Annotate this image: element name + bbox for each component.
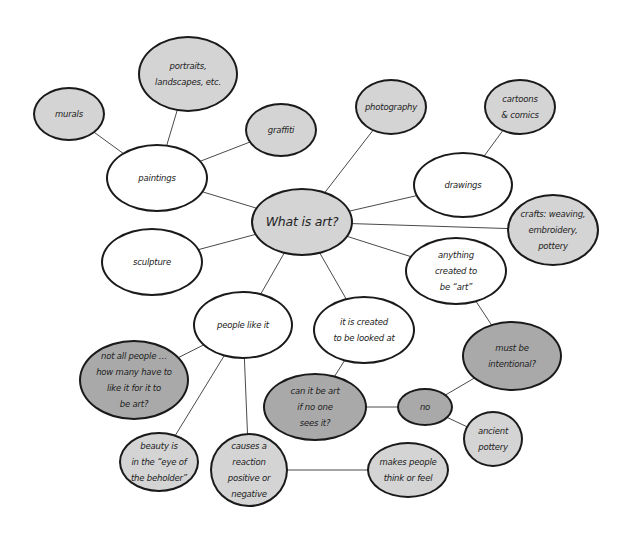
- node-anything: anything created to be “art”: [405, 237, 507, 305]
- node-label: What is art?: [266, 214, 339, 230]
- node-beauty: beauty is in the “eye of the beholder”: [119, 432, 199, 492]
- node-label: drawings: [444, 177, 481, 193]
- node-label: not all people … how many have to like i…: [96, 348, 172, 412]
- node-label: graffiti: [268, 122, 295, 138]
- node-label: causes a reaction positive or negative: [228, 438, 271, 502]
- node-label: photography: [365, 99, 417, 115]
- node-not-all: not all people … how many have to like i…: [79, 340, 189, 420]
- node-no: no: [397, 388, 453, 426]
- node-paintings: paintings: [106, 144, 208, 212]
- node-label: anything created to be “art”: [435, 247, 477, 295]
- node-intentional: must be intentional?: [462, 321, 562, 391]
- node-crafts: crafts: weaving, embroidery, pottery: [507, 194, 599, 266]
- node-photography: photography: [355, 79, 427, 135]
- node-cartoons: cartoons & comics: [484, 79, 556, 135]
- node-sculpture: sculpture: [101, 228, 203, 296]
- node-people-like: people like it: [193, 291, 293, 359]
- node-label: portraits, landscapes, etc.: [155, 58, 221, 90]
- node-label: no: [420, 399, 430, 415]
- node-graffiti: graffiti: [245, 103, 317, 157]
- node-label: people like it: [217, 317, 269, 333]
- node-looked-at: it is created to be looked at: [313, 296, 415, 364]
- node-label: sculpture: [133, 254, 171, 270]
- node-ancient: ancient pottery: [463, 411, 523, 467]
- node-label: it is created to be looked at: [333, 314, 394, 346]
- concept-map: What is art?muralsportraits, landscapes,…: [0, 0, 633, 533]
- node-no-one-sees: can it be art if no one sees it?: [263, 373, 367, 441]
- node-label: must be intentional?: [488, 340, 536, 372]
- node-think-feel: makes people think or feel: [367, 442, 449, 498]
- node-label: can it be art if no one sees it?: [290, 383, 339, 431]
- node-center: What is art?: [251, 188, 353, 256]
- node-portraits: portraits, landscapes, etc.: [138, 36, 238, 112]
- node-label: ancient pottery: [478, 423, 508, 455]
- edges-layer: [0, 0, 633, 533]
- node-murals: murals: [33, 87, 105, 141]
- node-label: murals: [55, 106, 83, 122]
- node-label: crafts: weaving, embroidery, pottery: [521, 206, 586, 254]
- node-label: makes people think or feel: [379, 454, 436, 486]
- node-reaction: causes a reaction positive or negative: [210, 433, 288, 507]
- node-label: beauty is in the “eye of the beholder”: [131, 438, 187, 486]
- node-label: cartoons & comics: [501, 91, 538, 123]
- node-drawings: drawings: [413, 152, 513, 218]
- node-label: paintings: [138, 170, 175, 186]
